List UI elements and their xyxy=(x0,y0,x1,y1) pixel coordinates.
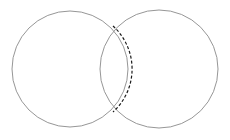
right-circle-outline xyxy=(100,10,218,128)
overlapping-circles-figure xyxy=(0,0,230,140)
dashed-intersection-arc xyxy=(113,26,132,112)
left-circle-outline xyxy=(12,11,128,127)
diagram-canvas xyxy=(0,0,230,140)
